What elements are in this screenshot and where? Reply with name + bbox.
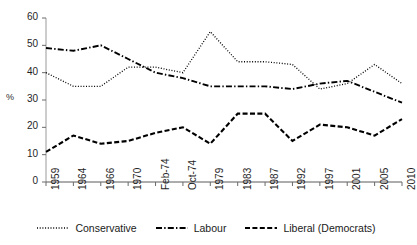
y-axis-tick-label: 30: [8, 93, 38, 104]
x-axis-tick-label: 1966: [105, 168, 116, 190]
legend-label: Liberal (Democrats): [283, 222, 375, 234]
x-axis-tick-label: 1987: [269, 168, 280, 190]
x-axis-tick-label: 1983: [242, 168, 253, 190]
legend-item[interactable]: Labour: [155, 222, 227, 234]
x-axis-tick-label: 1959: [50, 168, 61, 190]
legend-label: Conservative: [75, 222, 136, 234]
y-axis-tick-label: 10: [8, 148, 38, 159]
series-line-liberal-democrats: [46, 114, 402, 152]
data-series-group: [46, 32, 402, 152]
y-axis-tick-label: 0: [8, 175, 38, 186]
legend-item[interactable]: Liberal (Democrats): [244, 222, 375, 234]
x-axis-tick-label: Oct-74: [187, 160, 198, 190]
axes: [42, 18, 402, 186]
x-axis-tick-label: 1997: [324, 168, 335, 190]
chart-legend: ConservativeLabourLiberal (Democrats): [0, 216, 412, 240]
legend-label: Labour: [194, 222, 227, 234]
series-line-labour: [46, 45, 402, 102]
x-axis-tick-label: Feb-74: [160, 158, 171, 190]
legend-item[interactable]: Conservative: [36, 222, 136, 234]
y-axis-tick-label: 60: [8, 11, 38, 22]
x-axis-tick-label: 1992: [296, 168, 307, 190]
y-axis-ticks: [42, 18, 46, 182]
x-axis-tick-label: 2001: [351, 168, 362, 190]
x-axis-tick-label: 1970: [132, 168, 143, 190]
x-axis-tick-label: 1964: [77, 168, 88, 190]
x-axis-tick-label: 2010: [406, 168, 417, 190]
legend-line-swatch: [36, 223, 70, 233]
legend-line-swatch: [155, 223, 189, 233]
y-axis-tick-label: 20: [8, 120, 38, 131]
legend-line-swatch: [244, 223, 278, 233]
x-axis-tick-label: 1979: [214, 168, 225, 190]
y-axis-tick-label: 50: [8, 38, 38, 49]
y-axis-tick-label: 40: [8, 66, 38, 77]
x-axis-tick-label: 2005: [379, 168, 390, 190]
